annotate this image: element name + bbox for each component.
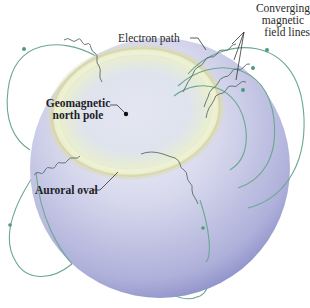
label-auroral-oval: Auroral oval <box>35 184 98 196</box>
label-geomagnetic-pole: Geomagnetic north pole <box>42 97 114 121</box>
label-field-lines-line3: field lines <box>248 26 310 38</box>
aurora-diagram: Electron path Converging magnetic field … <box>0 0 310 308</box>
label-electron-path: Electron path <box>118 32 180 44</box>
label-field-lines: Converging magnetic field lines <box>248 2 310 38</box>
label-field-lines-line1: Converging <box>248 2 310 14</box>
label-pole-line1: Geomagnetic <box>42 97 114 109</box>
label-field-lines-line2: magnetic <box>248 14 310 26</box>
label-pole-line2: north pole <box>42 109 114 121</box>
diagram-graphic <box>0 0 310 308</box>
pole-marker <box>124 112 128 116</box>
